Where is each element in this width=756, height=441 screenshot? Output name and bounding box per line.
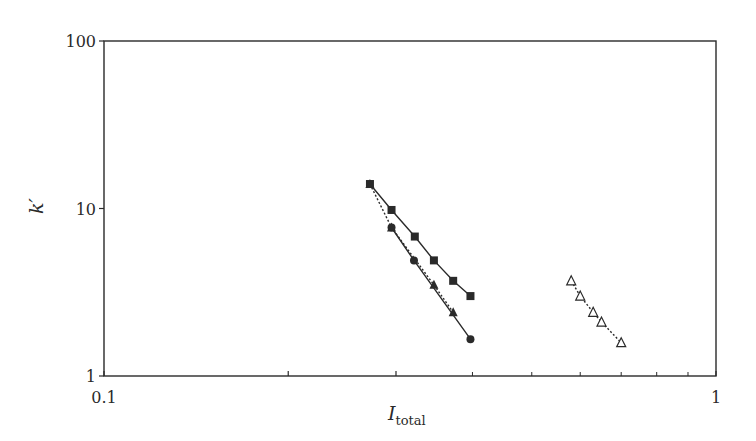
square-marker <box>388 206 396 214</box>
series-line <box>392 228 471 340</box>
y-tick-label: 10 <box>76 200 96 219</box>
chart: 1101000.11 <box>0 0 756 441</box>
square-marker <box>466 292 474 300</box>
square-marker <box>430 256 438 264</box>
x-axis-label-main: I <box>388 402 396 424</box>
open-triangle-marker <box>597 317 606 326</box>
y-axis-label: k′ <box>25 198 47 214</box>
circle-marker <box>410 256 418 264</box>
square-marker <box>449 277 457 285</box>
x-tick-label: 0.1 <box>91 388 116 407</box>
series-line <box>370 184 453 312</box>
circle-marker <box>388 224 396 232</box>
open-triangle-marker <box>567 276 576 285</box>
circle-marker <box>466 335 474 343</box>
open-triangle-marker <box>576 291 585 300</box>
x-axis-label-sub: total <box>396 413 426 428</box>
y-tick-label: 1 <box>86 367 96 386</box>
open-triangle-marker <box>617 338 626 347</box>
y-tick-label: 100 <box>65 32 96 51</box>
series-line <box>571 281 621 343</box>
x-axis-label: Itotal <box>388 402 426 428</box>
x-tick-label: 1 <box>711 388 721 407</box>
plot-frame <box>104 41 716 376</box>
square-marker <box>411 233 419 241</box>
